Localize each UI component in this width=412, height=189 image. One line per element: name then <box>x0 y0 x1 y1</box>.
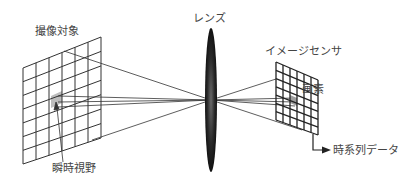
target-grid <box>23 37 101 164</box>
light-rays <box>58 51 302 140</box>
lens-label: レンズ <box>193 13 226 24</box>
output-label: 時系列データ <box>333 145 399 156</box>
ifov-label: 瞬時視野 <box>52 163 96 174</box>
pixel-label: 画素 <box>302 84 324 95</box>
sensor-label: イメージセンサ <box>265 46 342 57</box>
output-arrow <box>313 134 331 154</box>
lens-shape <box>205 28 217 172</box>
target-label: 撮像対象 <box>35 26 79 37</box>
